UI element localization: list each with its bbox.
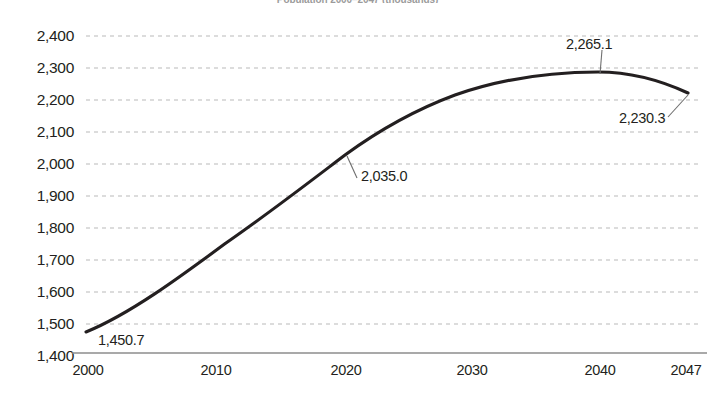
population-line-chart: Population 2000–2047 (thousands) 2,400 2…	[0, 0, 715, 408]
data-label-2020: 2,035.0	[361, 168, 407, 184]
x-tick-label: 2040	[565, 362, 635, 379]
data-label-peak: 2,265.1	[566, 36, 612, 52]
x-tick-label: 2000	[53, 362, 123, 379]
x-tick-label: 2047	[651, 362, 715, 379]
x-tick-label: 2010	[181, 362, 251, 379]
population-line-series	[86, 72, 688, 332]
data-label-start: 1,450.7	[98, 332, 144, 348]
x-tick-label: 2030	[437, 362, 507, 379]
data-label-end: 2,230.3	[619, 110, 665, 126]
x-tick-label: 2020	[311, 362, 381, 379]
